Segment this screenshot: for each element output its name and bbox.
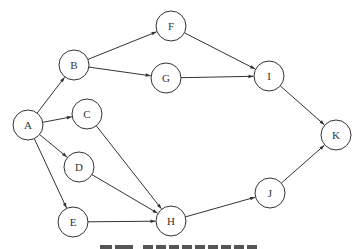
nodes-layer: ABCDEFGHIJK <box>13 11 351 237</box>
node-c: C <box>72 99 102 129</box>
node-h: H <box>156 206 186 236</box>
node-label: G <box>162 72 170 84</box>
figure-caption-clipped <box>100 245 265 249</box>
edge-j-to-k <box>281 145 324 183</box>
node-label: J <box>268 187 273 199</box>
node-f: F <box>156 11 186 41</box>
node-b: B <box>59 50 89 80</box>
edge-a-to-c <box>43 117 72 123</box>
edge-a-to-b <box>37 77 65 113</box>
edge-g-to-i <box>181 76 254 77</box>
node-k: K <box>321 120 351 150</box>
node-label: K <box>332 129 340 141</box>
edge-e-to-h <box>88 221 156 222</box>
node-a: A <box>13 110 43 140</box>
node-j: J <box>255 178 285 208</box>
edge-a-to-e <box>34 139 66 208</box>
edge-h-to-j <box>185 197 255 217</box>
edge-b-to-f <box>88 32 157 60</box>
node-label: F <box>168 20 174 32</box>
node-label: A <box>24 119 32 131</box>
node-label: B <box>70 59 77 71</box>
node-g: G <box>151 63 181 93</box>
node-label: H <box>167 215 175 227</box>
node-label: D <box>75 161 83 173</box>
node-label: E <box>70 216 77 228</box>
edge-a-to-d <box>40 135 67 158</box>
node-label: I <box>267 70 271 82</box>
edge-f-to-i <box>184 33 255 69</box>
directed-graph-diagram: ABCDEFGHIJK <box>0 0 364 249</box>
edge-b-to-g <box>89 67 151 76</box>
node-d: D <box>64 152 94 182</box>
edge-d-to-h <box>92 175 158 214</box>
node-i: I <box>254 61 284 91</box>
node-label: C <box>83 108 90 120</box>
node-e: E <box>58 207 88 237</box>
edge-i-to-k <box>280 86 324 125</box>
